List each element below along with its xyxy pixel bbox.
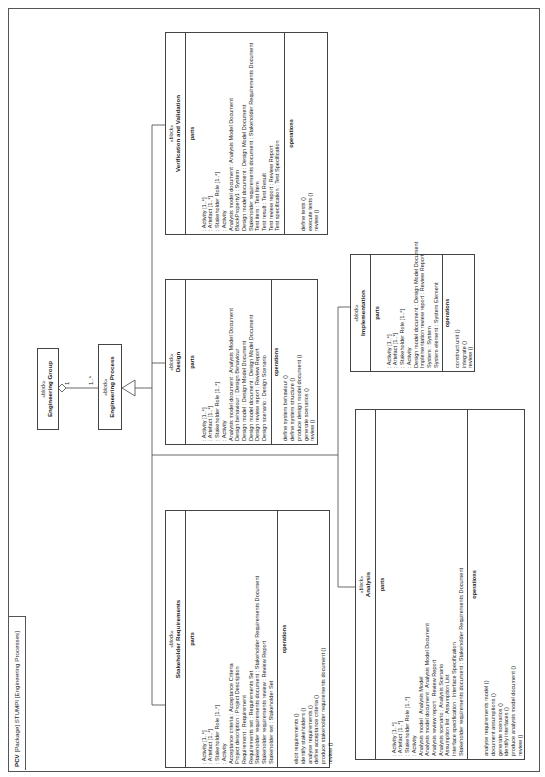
operation-item: execute tests () xyxy=(307,36,314,231)
part-item: Design behaviour : Design Behaviour xyxy=(234,283,241,441)
parts-compartment: parts : Activity [1..*] : Artefact [1..*… xyxy=(371,255,443,371)
operation-item: identify stakeholders () xyxy=(300,514,307,764)
part-item: : Activity [1..*] xyxy=(201,283,208,441)
operation-item: define tests () xyxy=(300,36,307,231)
block-stakeholder-requirements[interactable]: «block» Stakeholder Requirements parts :… xyxy=(165,510,330,768)
block-engineering-group[interactable]: «block» Engineering Group xyxy=(37,348,59,430)
part-item: : Artefact [1..*] xyxy=(397,413,404,756)
operation-item: produce analysis model document () xyxy=(510,413,517,756)
operation-item: review () xyxy=(327,514,334,764)
block-verification-and-validation[interactable]: «block» Verification and Validation part… xyxy=(165,32,328,235)
part-item: Design model document : Design Model Doc… xyxy=(413,258,420,368)
operation-item: produce stakeholder requirements documen… xyxy=(320,514,327,764)
part-item: Analysis model document : Analysis Model… xyxy=(228,36,235,231)
operations-compartment: operations analyse requirements model ()… xyxy=(468,410,526,759)
parts-compartment: parts : Activity [1..*] : Artefact [1..*… xyxy=(186,511,278,767)
operation-item: document assumptions () xyxy=(490,413,497,756)
part-item: : Activity [1..*] xyxy=(386,258,393,368)
operations-compartment: operations construct unit () integrate (… xyxy=(443,255,477,371)
block-name: Design xyxy=(174,282,182,442)
block-name: Engineering Group xyxy=(46,351,54,427)
part-item: Design model document : Design Model Doc… xyxy=(241,36,248,231)
part-item: Interface specification : Interface Spec… xyxy=(451,413,458,756)
part-item: Stakeholder set : Stakeholder Set xyxy=(268,514,275,764)
operation-item: integrate () xyxy=(461,258,468,368)
operation-item: review () xyxy=(467,258,474,368)
part-item: Requirements set : Requirements Set xyxy=(248,514,255,764)
part-item: Stakeholder requirements review : Review… xyxy=(261,514,268,764)
part-item: : Artefact [1..*] xyxy=(392,258,399,368)
operations-label: operations xyxy=(468,413,483,756)
parts-label: parts xyxy=(186,36,201,231)
multiplicity-process-end: 1..* xyxy=(88,376,94,385)
block-name: Engineering Process xyxy=(108,347,116,427)
operations-compartment: operations elicit requirements () identi… xyxy=(278,511,336,767)
operations-label: operations xyxy=(443,258,454,368)
operation-item: review () xyxy=(517,413,524,756)
part-item: : Activity xyxy=(221,514,228,764)
part-item: Implementation review report : Review Re… xyxy=(419,258,426,368)
block-implementation[interactable]: «block» Implementation parts : Activity … xyxy=(350,254,475,372)
parts-compartment: parts : Activity [1..*] : Artefact [1..*… xyxy=(376,410,468,759)
block-design[interactable]: «block» Design parts : Activity [1..*] :… xyxy=(165,279,318,445)
part-item: : Stakeholder Role [1..*] xyxy=(399,258,406,368)
part-item: Analysis model document : Analysis Model… xyxy=(228,283,235,441)
operation-item: define system structure () xyxy=(289,283,296,441)
part-item: : Activity xyxy=(406,258,413,368)
operation-item: review () xyxy=(313,36,320,231)
part-item: Analysis model document : Analysis Model… xyxy=(424,413,431,756)
parts-label: parts xyxy=(376,413,391,756)
part-item: : Artefact [1..*] xyxy=(207,283,214,441)
part-item: Stakeholder requirements document : Stak… xyxy=(254,514,261,764)
part-item: System element : System Element xyxy=(433,258,440,368)
part-item: : Activity [1..*] xyxy=(391,413,398,756)
operation-item: define acceptance criteria () xyxy=(313,514,320,764)
part-item: Test item : Test Item xyxy=(254,36,261,231)
parts-compartment: parts : Activity [1..*] : Artefact [1..*… xyxy=(186,33,285,234)
part-item: Project description : Project Descriptio… xyxy=(234,514,241,764)
part-item: Test result : Test Result xyxy=(261,36,268,231)
parts-compartment: parts : Activity [1..*] : Artefact [1..*… xyxy=(186,280,272,444)
part-item: Analysis scenario : Analysis Scenario xyxy=(438,413,445,756)
part-item: Design scenario : Design Scenario xyxy=(261,283,268,441)
block-name: Stakeholder Requirements xyxy=(174,513,182,765)
operation-item: elicit requirements () xyxy=(293,514,300,764)
part-item: Test review report : Review Report xyxy=(268,36,275,231)
operation-item: produce design model document () xyxy=(296,283,303,441)
part-item: Analysis review report : Review Report xyxy=(431,413,438,756)
part-item: : Stakeholder Role [1..*] xyxy=(404,413,411,756)
part-item: : Activity [1..*] xyxy=(201,514,208,764)
parts-label: parts xyxy=(186,283,201,441)
block-name: Implementation xyxy=(359,257,367,369)
block-name: Analysis xyxy=(364,412,372,757)
part-item: : Artefact [1..*] xyxy=(207,514,214,764)
part-item: Stakeholder requirements document : Stak… xyxy=(458,413,465,756)
part-item: System : System xyxy=(426,258,433,368)
operation-item: review () xyxy=(309,283,316,441)
part-item: Test specification : Test Specification xyxy=(274,36,281,231)
operation-item: define system behaviour () xyxy=(282,283,289,441)
operations-label: operations xyxy=(278,514,293,764)
block-analysis[interactable]: «block» Analysis parts : Activity [1..*]… xyxy=(355,409,525,760)
part-item: : Activity [1..*] xyxy=(201,36,208,231)
part-item: Acceptance criteria : Acceptance Criteri… xyxy=(228,514,235,764)
part-item: : Artefact [1..*] xyxy=(207,36,214,231)
operation-item: analyse requirements model () xyxy=(483,413,490,756)
operation-item: analyse requirements () xyxy=(307,514,314,764)
block-engineering-process[interactable]: «block» Engineering Process xyxy=(98,344,122,430)
block-name: Verification and Validation xyxy=(174,35,182,232)
part-item: : Stakeholder Role [1..*] xyxy=(214,36,221,231)
parts-label: parts xyxy=(371,258,386,368)
part-item: BlockProperty1 : System xyxy=(234,36,241,231)
operations-label: operations xyxy=(285,36,300,231)
part-item: : Stakeholder Role [1..*] xyxy=(214,514,221,764)
part-item: : Activity xyxy=(221,283,228,441)
part-item: Assumption list : Assumption List xyxy=(444,413,451,756)
part-item: Requirement : Requirement xyxy=(241,514,248,764)
operation-item: generate scenarios () xyxy=(303,283,310,441)
part-item: : Stakeholder Role [1..*] xyxy=(214,283,221,441)
parts-label: parts xyxy=(186,514,201,764)
part-item: Analysis model : Analysis Model xyxy=(418,413,425,756)
multiplicity-group-end: 1 xyxy=(64,382,70,385)
operation-item: identify interfaces () xyxy=(503,413,510,756)
